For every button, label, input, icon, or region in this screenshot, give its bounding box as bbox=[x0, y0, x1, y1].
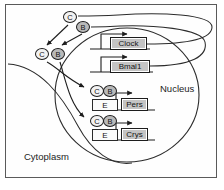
protein-label: C bbox=[94, 87, 99, 96]
clock-protein-import-arrow bbox=[47, 25, 68, 45]
protein-clock-cytoplasm[interactable]: C bbox=[35, 48, 49, 60]
protein-clock-crys-dimer[interactable]: C bbox=[90, 115, 104, 127]
gene-box-bmal1[interactable]: Bmal1 bbox=[110, 60, 150, 73]
promoter-label: E bbox=[102, 101, 107, 110]
dimer-to-pers-ebox-arrow bbox=[47, 62, 84, 87]
protein-bmal-cytoplasm[interactable]: B bbox=[51, 48, 65, 60]
protein-label: C bbox=[39, 50, 44, 59]
gene-label: Pers bbox=[126, 100, 142, 109]
gene-box-crys[interactable]: Crys bbox=[121, 128, 148, 141]
protein-label: C bbox=[67, 13, 72, 22]
protein-label: B bbox=[80, 23, 85, 32]
protein-clock-nuclear[interactable]: C bbox=[63, 11, 77, 23]
protein-bmal-crys-dimer[interactable]: B bbox=[103, 115, 117, 127]
promoter-ebox-pers[interactable]: E bbox=[92, 99, 118, 111]
protein-label: B bbox=[55, 50, 60, 59]
promoter-ebox-crys[interactable]: E bbox=[92, 129, 118, 141]
gene-label: Crys bbox=[126, 130, 142, 139]
protein-label: C bbox=[94, 117, 99, 126]
gene-label: Clock bbox=[118, 39, 138, 48]
bmal-protein-import-arrow bbox=[62, 34, 82, 45]
gene-label: Bmal1 bbox=[119, 62, 142, 71]
protein-bmal-nuclear[interactable]: B bbox=[76, 21, 90, 33]
cytoplasm-label: Cytoplasm bbox=[24, 151, 69, 162]
protein-bmal-pers-dimer[interactable]: B bbox=[103, 85, 117, 97]
protein-label: B bbox=[107, 117, 112, 126]
protein-label: B bbox=[107, 87, 112, 96]
dimer-to-crys-ebox-arrow bbox=[60, 62, 84, 117]
gene-box-pers[interactable]: Pers bbox=[121, 98, 148, 111]
protein-clock-pers-dimer[interactable]: C bbox=[90, 85, 104, 97]
gene-box-clock[interactable]: Clock bbox=[110, 37, 147, 50]
circadian-clock-diagram: C B C B C B C B Clock Bmal1 Pers Crys E … bbox=[0, 0, 224, 190]
nucleus-label: Nucleus bbox=[160, 83, 194, 94]
promoter-label: E bbox=[102, 131, 107, 140]
